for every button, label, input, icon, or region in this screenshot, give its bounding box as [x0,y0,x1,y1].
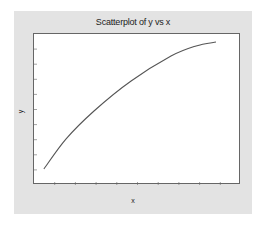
x-axis-label: x [14,197,252,204]
chart-frame: Scatterplot of y vs x x y [14,11,252,214]
plot-area [33,33,240,184]
data-curve [44,42,216,169]
chart-title: Scatterplot of y vs x [14,17,252,27]
curve-layer [34,34,241,185]
y-axis-label: y [17,110,24,114]
